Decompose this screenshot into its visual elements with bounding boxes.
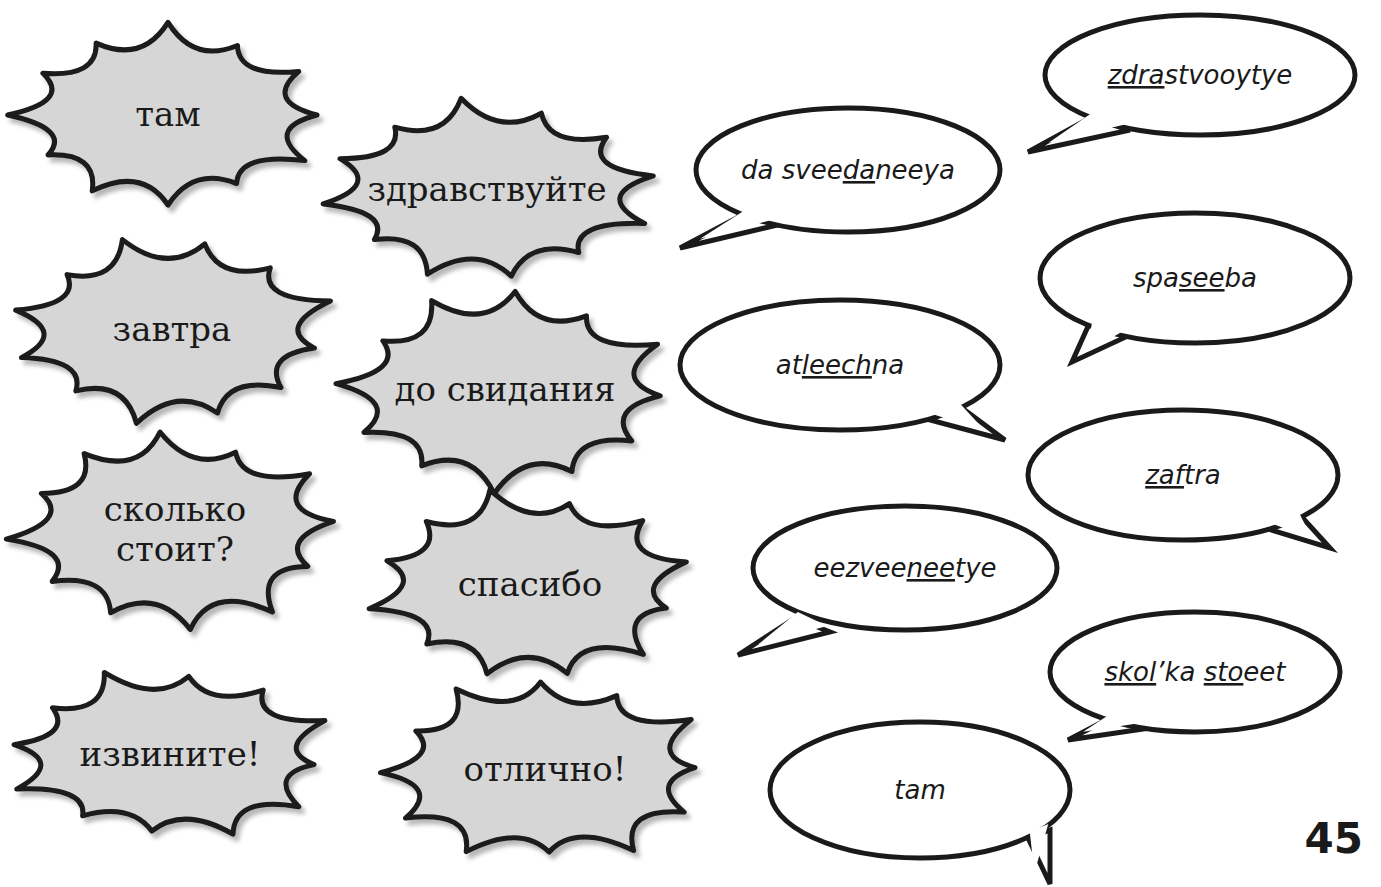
russian-word-text: там: [135, 94, 201, 134]
syllable: at: [776, 350, 803, 380]
stressed-syllable: zdra: [1107, 60, 1165, 90]
burst-izvinite: извините!: [14, 672, 325, 834]
syllable: stvooytye: [1164, 60, 1292, 90]
burst-do-svidaniya: до свидания: [336, 292, 660, 494]
bubble-zdrastvooytye: zdrastvooytye: [1028, 15, 1355, 152]
bubble-zaftra: zaftra: [1028, 410, 1338, 548]
syllable: ’ka: [1156, 657, 1204, 687]
syllable: tye: [955, 553, 997, 583]
russian-word-text: спасибо: [458, 564, 603, 604]
stressed-syllable: da: [843, 155, 875, 185]
burst-zavtra: завтра: [16, 240, 331, 424]
syllable: neeya: [875, 155, 955, 185]
stressed-syllable: nee: [906, 553, 954, 583]
burst-spasibo: спасибо: [369, 490, 686, 674]
worksheet-page: тамздравствуйтезавтрадо свиданиясколькос…: [0, 0, 1381, 887]
transliteration-text: skol’ka stoeet: [1104, 657, 1286, 687]
russian-word-text: отлично!: [464, 749, 627, 789]
transliteration-text: zaftra: [1144, 460, 1221, 490]
transliteration-text: da sveedaneeya: [741, 155, 955, 185]
syllable: da svee: [741, 155, 843, 185]
worksheet-canvas: тамздравствуйтезавтрадо свиданиясколькос…: [0, 0, 1381, 887]
syllable: na: [872, 350, 904, 380]
transliteration-text: spaseeba: [1133, 263, 1257, 293]
bubble-atleechna: atleechna: [680, 300, 1005, 440]
transliteration-text: zdrastvooytye: [1107, 60, 1293, 90]
burst-otlichno: отлично!: [381, 682, 696, 852]
russian-word-bursts: тамздравствуйтезавтрадо свиданиясколькос…: [6, 22, 695, 852]
russian-word-text: сколько: [104, 489, 247, 529]
bubble-eezveeneetye: eezveeneetye: [738, 506, 1057, 655]
burst-skolko-stoit: сколькостоит?: [6, 432, 333, 629]
syllable: eet: [1243, 657, 1286, 687]
burst-zdravstvuyte: здравствуйте: [323, 98, 653, 276]
stressed-syllable: sto: [1204, 657, 1244, 687]
syllable: ba: [1225, 263, 1257, 293]
bubble-tam: tam: [770, 722, 1070, 884]
stressed-syllable: zaf: [1144, 460, 1188, 490]
russian-word-text: стоит?: [116, 529, 234, 569]
transliteration-text: atleechna: [776, 350, 905, 380]
russian-word-text: здравствуйте: [367, 169, 606, 209]
transliteration-text: tam: [894, 775, 945, 805]
syllable: spa: [1133, 263, 1179, 293]
bubble-spaseeba: spaseeba: [1040, 213, 1350, 362]
syllable: tra: [1184, 460, 1221, 490]
russian-word-text: завтра: [113, 309, 232, 349]
russian-word-text: до свидания: [394, 369, 615, 409]
syllable: eezvee: [813, 553, 906, 583]
transliteration-text: eezveeneetye: [813, 553, 996, 583]
bubble-skolka-stoeet: skol’ka stoeet: [1050, 612, 1340, 740]
syllable: tam: [894, 775, 945, 805]
russian-word-text: извините!: [80, 734, 261, 774]
page-number: 45: [1305, 814, 1363, 863]
transliteration-bubbles: zdrastvooytyeda sveedaneeyaspaseebaatlee…: [680, 15, 1355, 884]
stressed-syllable: see: [1179, 263, 1225, 293]
bubble-da-sveedaneeya: da sveedaneeya: [680, 108, 1000, 248]
stressed-syllable: skol: [1104, 657, 1157, 687]
stressed-syllable: leech: [802, 350, 872, 380]
burst-tam: там: [8, 22, 317, 205]
